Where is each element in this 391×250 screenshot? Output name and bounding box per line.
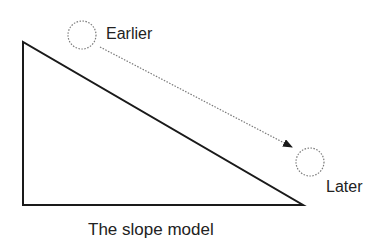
slope-diagram — [0, 0, 391, 250]
movement-arrow — [100, 47, 292, 147]
later-label: Later — [326, 179, 362, 195]
earlier-label: Earlier — [106, 26, 152, 42]
later-position-circle — [296, 148, 324, 176]
diagram-caption: The slope model — [88, 221, 214, 238]
slope-triangle — [23, 42, 303, 205]
earlier-position-circle — [68, 21, 96, 49]
